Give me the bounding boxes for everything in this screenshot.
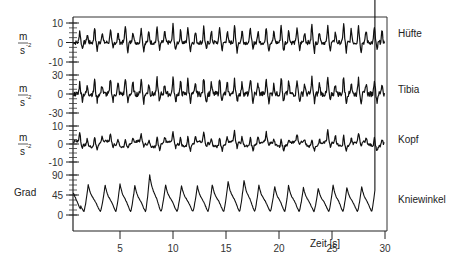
x-tick-label: 15 <box>220 243 232 254</box>
unit-label-kopf: m s -2 <box>18 132 32 157</box>
x-axis-ticks: 51015202530 <box>117 231 391 254</box>
svg-text:-2: -2 <box>26 42 32 48</box>
series-label-kniewinkel: Kniewinkel <box>398 194 446 205</box>
x-tick-label: 30 <box>379 243 391 254</box>
svg-text:-2: -2 <box>26 143 32 149</box>
svg-text:s: s <box>20 97 25 108</box>
svg-text:s: s <box>20 45 25 56</box>
unit-label-kniewinkel: Grad <box>14 187 36 198</box>
svg-text:m: m <box>19 31 27 42</box>
svg-text:m: m <box>19 132 27 143</box>
y-tick-label: 10 <box>52 121 64 132</box>
y-tick-label: 0 <box>57 38 63 49</box>
y-tick-label: 45 <box>52 190 64 201</box>
y-tick-label: 0 <box>57 89 63 100</box>
x-tick-label: 20 <box>273 243 285 254</box>
y-tick-label: 0 <box>57 210 63 221</box>
unit-label-tibia: m s -2 <box>18 83 32 108</box>
y-tick-label: 30 <box>52 70 64 81</box>
x-tick-label: 5 <box>117 243 123 254</box>
series-label-tibia: Tibia <box>398 84 420 95</box>
x-tick-label: 10 <box>167 243 179 254</box>
y-axis-ticks: 100-10300-30100-1090450 <box>49 18 79 221</box>
biomechanics-chart: 100-10300-30100-1090450 51015202530 m s … <box>0 0 459 261</box>
svg-text:s: s <box>20 146 25 157</box>
y-tick-label: 0 <box>57 139 63 150</box>
y-tick-label: 10 <box>52 18 64 29</box>
x-axis-label: Zeit [s] <box>310 238 340 249</box>
svg-text:m: m <box>19 83 27 94</box>
y-tick-label: -10 <box>49 157 64 168</box>
trace-kniewinkel <box>73 0 384 212</box>
series-label-kopf: Kopf <box>398 134 419 145</box>
plot-frame <box>73 17 387 231</box>
y-tick-label: -10 <box>49 57 64 68</box>
y-tick-label: 90 <box>52 170 64 181</box>
signal-traces <box>73 0 384 212</box>
trace-kopf <box>73 130 384 152</box>
trace-tibia <box>73 76 384 104</box>
svg-text:-2: -2 <box>26 94 32 100</box>
unit-label-huefte: m s -2 <box>18 31 32 56</box>
y-tick-label: -30 <box>49 108 64 119</box>
series-label-huefte: Hüfte <box>398 28 422 39</box>
trace-huefte <box>73 23 384 53</box>
